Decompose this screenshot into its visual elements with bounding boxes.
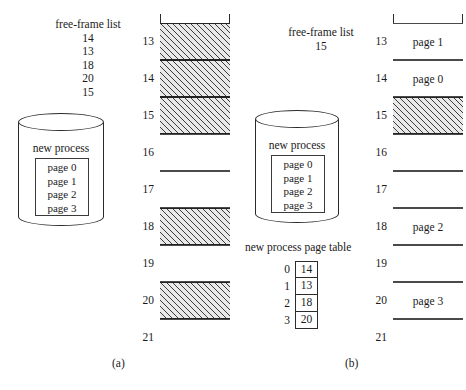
frame-index-label: 19 [357,257,387,269]
memory-frame [393,171,463,208]
memory-frame-content: page 1 [393,36,463,48]
memory-frame [393,319,463,352]
free-frame-list-item: 18 [28,59,148,73]
memory-frame [160,97,230,134]
memory-frame [160,171,230,208]
page-table-frame: 20 [295,312,318,329]
memory-frame-content: page 3 [393,295,463,307]
memory-frame [160,134,230,171]
process-pages-box-b: page 0 page 1 page 2 page 3 [271,155,325,213]
new-process-cylinder-a: new process page 0 page 1 page 2 page 3 [18,113,104,226]
page-table-frame: 14 [295,261,318,278]
page-table-frame: 18 [295,295,318,312]
paging-allocation-figure: free-frame list 14 13 18 20 15 new proce… [0,0,466,390]
frame-index-label: 19 [124,257,154,269]
frame-index-label: 18 [124,220,154,232]
page-table: 0 14 1 13 2 18 3 20 [274,261,324,329]
memory-frame: page 3 [393,282,463,319]
process-page-item: page 2 [272,185,324,199]
process-pages-box-a: page 0 page 1 page 2 page 3 [35,158,89,216]
frame-index-label: 21 [124,331,154,343]
memory-frame [393,134,463,171]
frame-index-label: 14 [357,72,387,84]
panel-b: free-frame list 15 new process page 0 pa… [233,0,466,390]
panel-a: free-frame list 14 13 18 20 15 new proce… [0,0,233,390]
memory-frame [393,245,463,282]
memory-frame [393,97,463,134]
frame-index-label: 14 [124,72,154,84]
page-table-title: new process page table [245,241,351,253]
panel-b-caption: (b) [345,357,358,369]
frame-index-label: 15 [124,109,154,121]
memory-frame [160,208,230,245]
frame-index-label: 16 [124,146,154,158]
process-page-item: page 3 [36,202,88,216]
page-table-row: 3 20 [274,312,324,329]
frame-index-label: 20 [357,294,387,306]
free-frame-list-a: free-frame list 14 13 18 20 15 [28,18,148,100]
memory-frame [160,282,230,319]
page-table-frame: 13 [295,278,318,295]
physical-memory-column-b: page 1 page 0 page 2 page 3 [393,14,463,352]
memory-frame [160,245,230,282]
cylinder-top-ellipse [255,110,339,128]
memory-frame [160,60,230,97]
memory-frame [160,319,230,352]
new-process-label-a: new process [18,142,104,154]
new-process-cylinder-b: new process page 0 page 1 page 2 page 3 [255,110,339,223]
page-table-index: 1 [274,278,290,295]
free-frame-list-item: 15 [28,86,148,100]
frame-index-label: 21 [357,331,387,343]
frame-index-label: 17 [124,183,154,195]
page-table-index: 0 [274,261,290,278]
memory-frame-content: page 2 [393,221,463,233]
page-table-row: 0 14 [274,261,324,278]
process-page-item: page 0 [36,161,88,175]
process-page-item: page 1 [36,175,88,189]
process-page-item: page 3 [272,199,324,213]
memory-frame: page 1 [393,23,463,60]
memory-frame-content: page 0 [393,73,463,85]
frame-index-label: 20 [124,294,154,306]
physical-memory-column-a [160,14,230,352]
free-frame-list-title-a: free-frame list [28,18,148,32]
frame-index-label: 16 [357,146,387,158]
cylinder-top-ellipse [18,113,104,131]
process-page-item: page 2 [36,188,88,202]
page-table-row: 1 13 [274,278,324,295]
frame-index-label: 13 [357,35,387,47]
process-page-item: page 1 [272,172,324,186]
frame-index-label: 13 [124,35,154,47]
free-frame-list-item: 13 [28,45,148,59]
process-page-item: page 0 [272,158,324,172]
memory-frame: page 2 [393,208,463,245]
panel-a-caption: (a) [112,357,125,369]
page-table-row: 2 18 [274,295,324,312]
new-process-label-b: new process [255,139,339,151]
memory-frame: page 0 [393,60,463,97]
frame-index-label: 17 [357,183,387,195]
memory-frame [160,23,230,60]
page-table-index: 3 [274,312,290,329]
frame-index-label: 15 [357,109,387,121]
frame-index-label: 18 [357,220,387,232]
page-table-index: 2 [274,295,290,312]
